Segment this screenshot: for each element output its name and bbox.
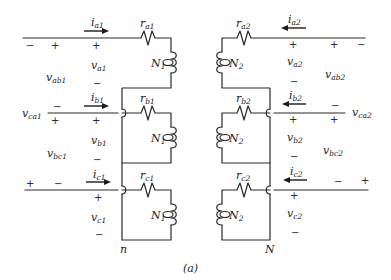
figure-caption: (a) xyxy=(183,262,198,275)
polarity-plus: + xyxy=(289,39,297,50)
resistor-label-ra2: ra2 xyxy=(236,17,251,31)
voltage-label-vc1: vc1 xyxy=(91,211,106,225)
polarity-minus: − xyxy=(290,76,298,87)
current-label-ia2: ia2 xyxy=(288,13,301,27)
current-label-ic2: ic2 xyxy=(290,165,303,179)
polarity-plus: + xyxy=(289,114,297,125)
polarity-plus: + xyxy=(51,115,59,126)
current-label-ib2: ib2 xyxy=(289,89,302,103)
polarity-minus: − xyxy=(290,151,298,162)
coil-a2-icon xyxy=(217,52,230,73)
polarity-minus: − xyxy=(53,101,61,112)
resistor-label-rc1: rc1 xyxy=(140,169,154,183)
resistor-label-ra1: ra1 xyxy=(140,17,155,31)
resistor-label-rb2: rb2 xyxy=(236,92,251,106)
voltage-label-vab2: vab2 xyxy=(325,68,345,82)
polarity-minus: − xyxy=(334,176,342,187)
turns-label-n1-b: N1 xyxy=(150,132,165,146)
winding-1: ia1 ib1 ic1 ra1 rb1 rc1 N1 N1 N1 va1 vb1… xyxy=(22,16,176,256)
coil-c2-icon xyxy=(217,204,230,225)
polarity-plus: + xyxy=(51,40,59,51)
polarity-plus: + xyxy=(361,175,369,186)
turns-label-n2-b: N2 xyxy=(228,132,244,146)
voltage-label-vb1: vb1 xyxy=(91,134,107,148)
wye-winding-diagram: ia1 ib1 ic1 ra1 rb1 rc1 N1 N1 N1 va1 vb1… xyxy=(0,0,391,280)
voltage-label-vca2: vca2 xyxy=(352,106,372,120)
voltage-label-va2: va2 xyxy=(287,55,303,69)
turns-label-n1-a: N1 xyxy=(150,57,165,71)
voltage-label-vc2: vc2 xyxy=(287,207,302,221)
current-label-ib1: ib1 xyxy=(91,91,104,105)
polarity-plus: + xyxy=(92,115,100,126)
voltage-label-vca1: vca1 xyxy=(22,107,42,121)
polarity-minus: − xyxy=(291,227,299,238)
polarity-plus: + xyxy=(330,114,338,125)
polarity-plus: + xyxy=(330,39,338,50)
polarity-minus: − xyxy=(54,178,62,189)
current-label-ia1: ia1 xyxy=(91,16,104,30)
polarity-plus: + xyxy=(26,178,34,189)
polarity-minus: − xyxy=(331,100,339,111)
neutral-label-N: N xyxy=(264,243,275,256)
polarity-plus: + xyxy=(92,40,100,51)
polarity-minus: − xyxy=(95,229,103,240)
turns-label-n1-c: N1 xyxy=(150,209,165,223)
voltage-label-vbc1: vbc1 xyxy=(47,147,67,161)
polarity-plus: + xyxy=(94,192,102,203)
voltage-label-vab1: vab1 xyxy=(46,71,66,85)
neutral-label-n: n xyxy=(120,243,127,256)
resistor-label-rc2: rc2 xyxy=(236,169,250,183)
polarity-plus: + xyxy=(290,190,298,201)
polarity-minus: − xyxy=(357,39,365,50)
polarity-minus: − xyxy=(26,40,34,51)
polarity-minus: − xyxy=(93,154,101,165)
voltage-label-va1: va1 xyxy=(91,59,106,73)
voltage-label-vbc2: vbc2 xyxy=(323,144,343,158)
resistor-label-rb1: rb1 xyxy=(140,92,155,106)
turns-label-n2-a: N2 xyxy=(228,57,244,71)
current-label-ic1: ic1 xyxy=(93,168,106,182)
turns-label-n2-c: N2 xyxy=(228,209,244,223)
winding-2: ia2 ib2 ic2 ra2 rb2 rc2 N2 N2 N2 va2 vb2… xyxy=(217,13,372,256)
voltage-label-vb2: vb2 xyxy=(287,131,303,145)
polarity-minus: − xyxy=(93,78,101,89)
coil-b2-icon xyxy=(217,127,230,148)
